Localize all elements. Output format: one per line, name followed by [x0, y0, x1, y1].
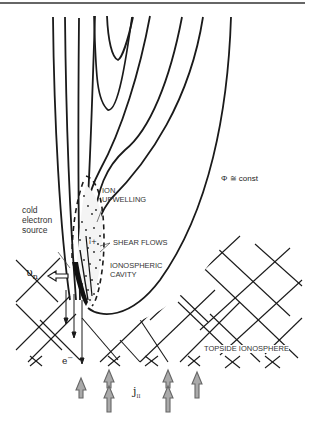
ionospheric-cavity-label-1: IONOSPHERIC — [110, 262, 163, 270]
neutral-velocity-label: υn — [26, 269, 38, 281]
e-superscript: − — [67, 354, 73, 362]
topside-ionosphere-label: TOPSIDE IONOSPHERE — [204, 345, 289, 353]
ion-plus-marker: i+ — [89, 238, 97, 246]
v-symbol: υ — [26, 266, 33, 279]
ionospheric-cavity-label-2: CAVITY — [110, 271, 137, 279]
ion-upwelling-label-1: ION — [102, 187, 115, 195]
cold-electron-label-1: cold — [22, 205, 38, 215]
electron-label: e− — [62, 354, 73, 365]
parallel-current-label: jII — [133, 388, 140, 400]
neutral-wind-arrow — [48, 271, 68, 281]
ion-upwelling-label-2: UPWELLING — [102, 196, 146, 204]
v-subscript: n — [33, 272, 38, 281]
j-subscript: II — [136, 393, 140, 399]
shear-flows-label: SHEAR FLOWS — [113, 239, 168, 247]
phi-const-label: Φ ≅ const — [221, 175, 258, 183]
cold-electron-label-3: source — [22, 225, 48, 235]
cold-electron-label-2: electron — [22, 215, 52, 225]
